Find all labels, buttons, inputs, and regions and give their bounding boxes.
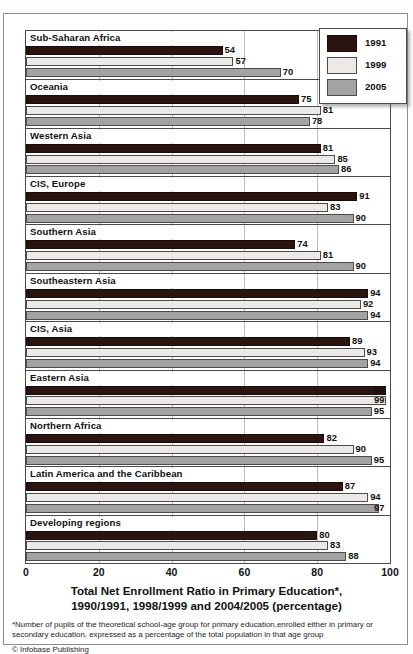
legend-swatch-1991 bbox=[327, 35, 357, 52]
category-label: Northern Africa bbox=[30, 420, 102, 431]
figure-frame: Sub-Saharan Africa545770Oceania758178Wes… bbox=[3, 13, 408, 645]
bar-row: 81 bbox=[26, 106, 390, 115]
legend: 199119992005 bbox=[319, 28, 407, 104]
bar-row: 95 bbox=[26, 456, 390, 465]
bar-row: 94 bbox=[26, 311, 390, 320]
bar-1999[interactable] bbox=[26, 203, 328, 212]
bar-value-label: 70 bbox=[283, 66, 293, 77]
bar-1991[interactable] bbox=[26, 192, 357, 201]
x-tick-label: 100 bbox=[381, 566, 399, 578]
bar-value-label: 99 bbox=[374, 394, 384, 405]
bar-value-label: 82 bbox=[326, 432, 336, 443]
bar-value-label: 81 bbox=[323, 104, 333, 115]
bar-2005[interactable] bbox=[26, 117, 310, 126]
bar-value-label: 99 bbox=[374, 384, 384, 395]
bar-1991[interactable] bbox=[26, 95, 299, 104]
category-label: Southern Asia bbox=[30, 226, 96, 237]
x-axis: 020406080100 bbox=[25, 566, 393, 582]
bar-value-label: 89 bbox=[352, 335, 362, 346]
x-tick-label: 20 bbox=[93, 566, 105, 578]
category-label: Developing regions bbox=[30, 517, 121, 528]
bar-1991[interactable] bbox=[26, 386, 386, 395]
bar-group: Western Asia818586 bbox=[26, 128, 390, 177]
bar-group: CIS, Europe918390 bbox=[26, 176, 390, 225]
bar-value-label: 85 bbox=[337, 153, 347, 164]
bar-1991[interactable] bbox=[26, 531, 317, 540]
bar-group: Southeastern Asia949294 bbox=[26, 273, 390, 322]
bar-row: 95 bbox=[26, 407, 390, 416]
bar-group: Southern Asia748190 bbox=[26, 224, 390, 273]
legend-swatch-1999 bbox=[327, 57, 357, 74]
bar-value-label: 94 bbox=[370, 287, 380, 298]
bar-row: 82 bbox=[26, 434, 390, 443]
x-tick-label: 80 bbox=[311, 566, 323, 578]
legend-swatch-2005 bbox=[327, 79, 357, 96]
bar-value-label: 94 bbox=[370, 309, 380, 320]
bar-1999[interactable] bbox=[26, 251, 321, 260]
bar-1991[interactable] bbox=[26, 240, 295, 249]
bar-row: 81 bbox=[26, 144, 390, 153]
bar-row: 83 bbox=[26, 203, 390, 212]
bar-value-label: 83 bbox=[330, 539, 340, 550]
category-label: Sub-Saharan Africa bbox=[30, 32, 120, 43]
x-tick-label: 60 bbox=[239, 566, 251, 578]
bar-group: CIS, Asia899394 bbox=[26, 321, 390, 370]
bar-1991[interactable] bbox=[26, 46, 223, 55]
bar-1999[interactable] bbox=[26, 493, 368, 502]
bar-row: 81 bbox=[26, 251, 390, 260]
bar-value-label: 94 bbox=[370, 491, 380, 502]
bar-2005[interactable] bbox=[26, 262, 354, 271]
bar-row: 94 bbox=[26, 493, 390, 502]
category-label: CIS, Europe bbox=[30, 178, 85, 189]
bar-2005[interactable] bbox=[26, 359, 368, 368]
bar-1991[interactable] bbox=[26, 337, 350, 346]
bar-value-label: 83 bbox=[330, 201, 340, 212]
legend-label: 1999 bbox=[365, 59, 386, 70]
bar-1999[interactable] bbox=[26, 155, 335, 164]
bar-row: 74 bbox=[26, 240, 390, 249]
bar-row: 92 bbox=[26, 300, 390, 309]
category-label: Latin America and the Caribbean bbox=[30, 468, 183, 479]
bar-row: 78 bbox=[26, 117, 390, 126]
bar-2005[interactable] bbox=[26, 504, 379, 513]
bar-2005[interactable] bbox=[26, 552, 346, 561]
bar-row: 88 bbox=[26, 552, 390, 561]
bar-1991[interactable] bbox=[26, 144, 321, 153]
bar-2005[interactable] bbox=[26, 68, 281, 77]
bar-1999[interactable] bbox=[26, 541, 328, 550]
chart-title-line2: 1990/1991, 1998/1999 and 2004/2005 (perc… bbox=[14, 599, 399, 614]
bar-row: 90 bbox=[26, 445, 390, 454]
bar-1999[interactable] bbox=[26, 348, 365, 357]
bar-value-label: 95 bbox=[374, 405, 384, 416]
bar-value-label: 86 bbox=[341, 163, 351, 174]
bar-2005[interactable] bbox=[26, 456, 372, 465]
bar-2005[interactable] bbox=[26, 311, 368, 320]
bar-row: 86 bbox=[26, 165, 390, 174]
bar-2005[interactable] bbox=[26, 407, 372, 416]
chart-title-line1: Total Net Enrollment Ratio in Primary Ed… bbox=[14, 584, 399, 599]
bar-row: 99 bbox=[26, 396, 390, 405]
legend-label: 2005 bbox=[365, 81, 386, 92]
bar-1999[interactable] bbox=[26, 396, 386, 405]
x-tick-label: 0 bbox=[23, 566, 29, 578]
bar-group: Eastern Asia999995 bbox=[26, 370, 390, 419]
bar-1991[interactable] bbox=[26, 482, 343, 491]
bar-1999[interactable] bbox=[26, 106, 321, 115]
category-label: Oceania bbox=[30, 81, 68, 92]
bar-2005[interactable] bbox=[26, 214, 354, 223]
bar-row: 85 bbox=[26, 155, 390, 164]
bar-1999[interactable] bbox=[26, 445, 354, 454]
bar-1991[interactable] bbox=[26, 434, 324, 443]
bar-1999[interactable] bbox=[26, 57, 233, 66]
category-label: Western Asia bbox=[30, 130, 91, 141]
bar-value-label: 92 bbox=[363, 298, 373, 309]
bar-2005[interactable] bbox=[26, 165, 339, 174]
bar-value-label: 91 bbox=[359, 190, 369, 201]
bar-1999[interactable] bbox=[26, 300, 361, 309]
bar-row: 97 bbox=[26, 504, 390, 513]
copyright: © Infobase Publishing bbox=[12, 645, 89, 654]
bar-value-label: 87 bbox=[345, 480, 355, 491]
bar-1991[interactable] bbox=[26, 289, 368, 298]
bar-value-label: 94 bbox=[370, 357, 380, 368]
bar-row: 93 bbox=[26, 348, 390, 357]
